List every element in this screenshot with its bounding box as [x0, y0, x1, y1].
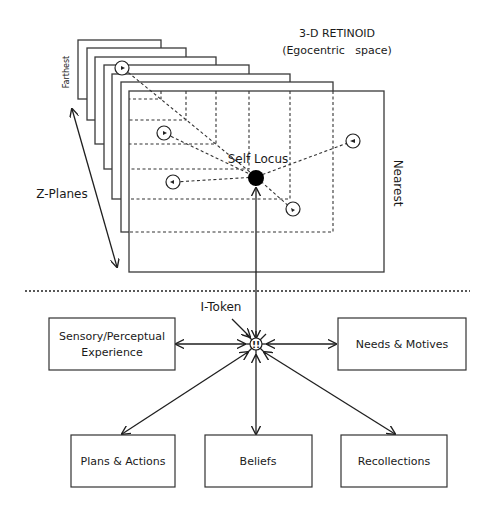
object-circle	[166, 175, 180, 189]
box-sensory-line-1: Sensory/Perceptual	[59, 330, 165, 343]
box-needs-label: Needs & Motives	[356, 338, 449, 351]
i-token-pointer-arrow	[232, 319, 250, 337]
box-sensory-line-2: Experience	[81, 346, 143, 359]
i-token-glyph: !!	[252, 340, 260, 350]
box-sensory-perceptual-experience: Sensory/Perceptual Experience	[49, 318, 175, 370]
box-recollections-label: Recollections	[358, 455, 431, 468]
box-beliefs: Beliefs	[205, 435, 312, 487]
box-recollections: Recollections	[341, 435, 447, 487]
object-circle	[157, 126, 171, 140]
object-circle	[346, 134, 360, 148]
title-line-1: 3-D RETINOID	[299, 27, 375, 40]
object-circle	[115, 61, 129, 75]
nearest-label: Nearest	[391, 160, 405, 207]
object-circle	[286, 202, 300, 216]
box-plans-actions: Plans & Actions	[71, 435, 175, 487]
title-line-2: (Egocentric space)	[282, 44, 392, 57]
box-beliefs-label: Beliefs	[240, 455, 277, 468]
box-needs-motives: Needs & Motives	[338, 318, 466, 370]
self-locus-label: Self Locus	[228, 152, 289, 166]
z-planes-label: Z-Planes	[36, 187, 88, 201]
box-plans-label: Plans & Actions	[81, 455, 166, 468]
self-locus-dot	[248, 170, 264, 186]
farthest-label: Farthest	[62, 56, 71, 89]
retinoid-diagram: Self Locus 3-D RETINOID (Egocentric spac…	[0, 0, 493, 515]
i-token-label: I-Token	[201, 300, 242, 314]
i-token-node: !!	[243, 331, 269, 357]
